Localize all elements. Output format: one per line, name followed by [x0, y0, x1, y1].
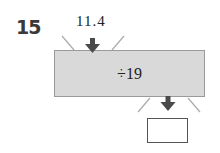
output-arrow-icon: [161, 96, 176, 111]
input-arrow-icon: [85, 38, 100, 53]
answer-box[interactable]: [147, 118, 188, 143]
